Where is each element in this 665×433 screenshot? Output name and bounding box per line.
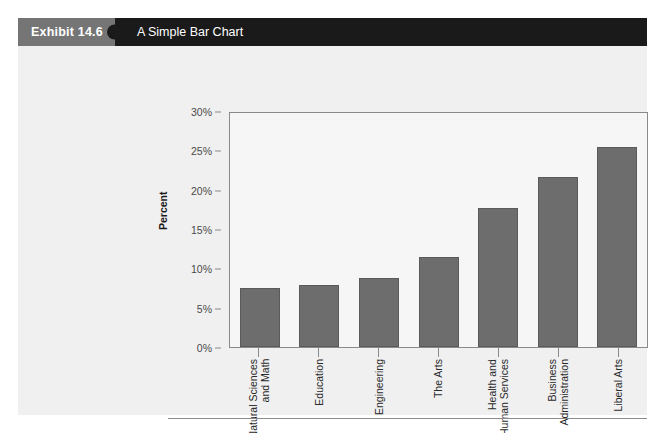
x-label-slot: Health and Human Services — [468, 359, 528, 433]
bar — [299, 285, 339, 347]
bar — [597, 147, 637, 347]
bar-slot — [349, 113, 409, 347]
x-tick-slot — [588, 348, 648, 357]
x-tick-slot — [409, 348, 469, 357]
y-tick-label: 30% — [191, 106, 212, 118]
y-tick-label: 15% — [191, 224, 212, 236]
bar-slot — [409, 113, 469, 347]
x-tick-mark — [558, 348, 559, 357]
x-label-slot: Education — [289, 359, 349, 433]
y-tick-label: 10% — [191, 263, 212, 275]
bar — [359, 278, 399, 347]
x-tick-label: The Arts — [432, 359, 444, 398]
exhibit-title: A Simple Bar Chart — [131, 18, 243, 46]
x-tick-slot — [468, 348, 528, 357]
bar — [240, 288, 280, 347]
x-tick-label: Natural Sciences and Math — [247, 359, 271, 433]
y-tick-label: 25% — [191, 145, 212, 157]
y-tick-mark — [215, 308, 221, 309]
x-tick-mark — [378, 348, 379, 357]
bar — [419, 257, 459, 347]
x-tick-label: Health and Human Services — [486, 359, 510, 433]
plot-area — [229, 112, 648, 348]
plot-inner — [230, 113, 647, 347]
y-tick-label: 0% — [197, 342, 212, 354]
x-tick-slot — [349, 348, 409, 357]
bar-slot — [230, 113, 290, 347]
y-tick-label: 5% — [197, 303, 212, 315]
x-tick-slot — [528, 348, 588, 357]
x-axis-ticks — [229, 348, 648, 357]
bar-series — [230, 113, 647, 347]
x-label-slot: Engineering — [349, 359, 409, 433]
y-tick-mark — [215, 269, 221, 270]
y-tick-mark — [215, 151, 221, 152]
bar-slot — [290, 113, 350, 347]
bar-slot — [587, 113, 647, 347]
y-tick-mark — [215, 190, 221, 191]
x-tick-label: Liberal Arts — [612, 359, 624, 412]
x-tick-slot — [229, 348, 289, 357]
exhibit-header-notch — [115, 18, 131, 46]
x-tick-mark — [498, 348, 499, 357]
x-tick-mark — [318, 348, 319, 357]
x-tick-mark — [618, 348, 619, 357]
bar-slot — [528, 113, 588, 347]
x-tick-label: Business Administration — [546, 359, 570, 426]
x-label-slot: Natural Sciences and Math — [229, 359, 289, 433]
y-tick-mark — [215, 348, 221, 349]
exhibit-number-label: Exhibit 14.6 — [18, 18, 115, 46]
x-tick-label: Engineering — [373, 359, 385, 415]
bar-slot — [468, 113, 528, 347]
x-tick-mark — [438, 348, 439, 357]
y-axis: 0%5%10%15%20%25%30% — [173, 112, 221, 348]
x-tick-mark — [258, 348, 259, 357]
y-tick-mark — [215, 112, 221, 113]
x-axis-labels: Natural Sciences and MathEducationEngine… — [229, 359, 648, 433]
x-tick-label: Education — [313, 359, 325, 406]
chart-panel: 0%5%10%15%20%25%30% Percent Natural Scie… — [18, 46, 647, 415]
exhibit-page: Exhibit 14.6 A Simple Bar Chart 0%5%10%1… — [0, 0, 665, 433]
y-tick-mark — [215, 230, 221, 231]
x-label-slot: The Arts — [409, 359, 469, 433]
y-tick-label: 20% — [191, 185, 212, 197]
y-axis-title: Percent — [157, 191, 169, 230]
x-label-slot: Business Administration — [528, 359, 588, 433]
bar — [538, 177, 578, 347]
x-tick-slot — [289, 348, 349, 357]
x-label-slot: Liberal Arts — [588, 359, 648, 433]
bar — [478, 208, 518, 347]
exhibit-header-bar: Exhibit 14.6 A Simple Bar Chart — [18, 18, 647, 46]
footer-rule — [168, 418, 647, 419]
